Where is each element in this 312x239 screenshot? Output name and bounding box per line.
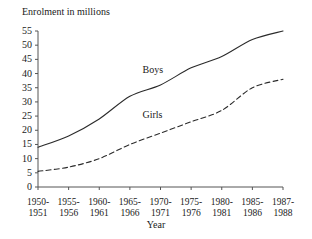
chart-title: Enrolment in millions (22, 6, 110, 17)
y-tick-label: 40 (10, 69, 32, 79)
y-tick-label: 0 (10, 182, 32, 192)
y-tick-label: 50 (10, 40, 32, 50)
y-tick-label: 5 (10, 168, 32, 178)
x-axis-title: Year (0, 219, 312, 230)
y-tick-label: 45 (10, 54, 32, 64)
y-tick-label: 35 (10, 83, 32, 93)
series-annotation-boys: Boys (143, 64, 164, 75)
y-tick-label: 20 (10, 125, 32, 135)
y-tick-label: 30 (10, 97, 32, 107)
x-tick-label: 1987-1988 (263, 197, 303, 219)
y-tick-label: 15 (10, 139, 32, 149)
y-tick-label: 25 (10, 111, 32, 121)
y-tick-label: 55 (10, 26, 32, 36)
series-line-boys (38, 31, 283, 147)
x-axis-tick-labels: 1950-19511955-19561960-19611965-19661970… (38, 191, 283, 219)
series-line-girls (38, 79, 283, 171)
y-tick-label: 10 (10, 154, 32, 164)
enrolment-line-chart: Enrolment in millions 051015202530354045… (0, 0, 312, 239)
series-annotation-girls: Girls (143, 109, 163, 120)
y-axis-tick-labels: 0510152025303540455055 (8, 31, 32, 187)
